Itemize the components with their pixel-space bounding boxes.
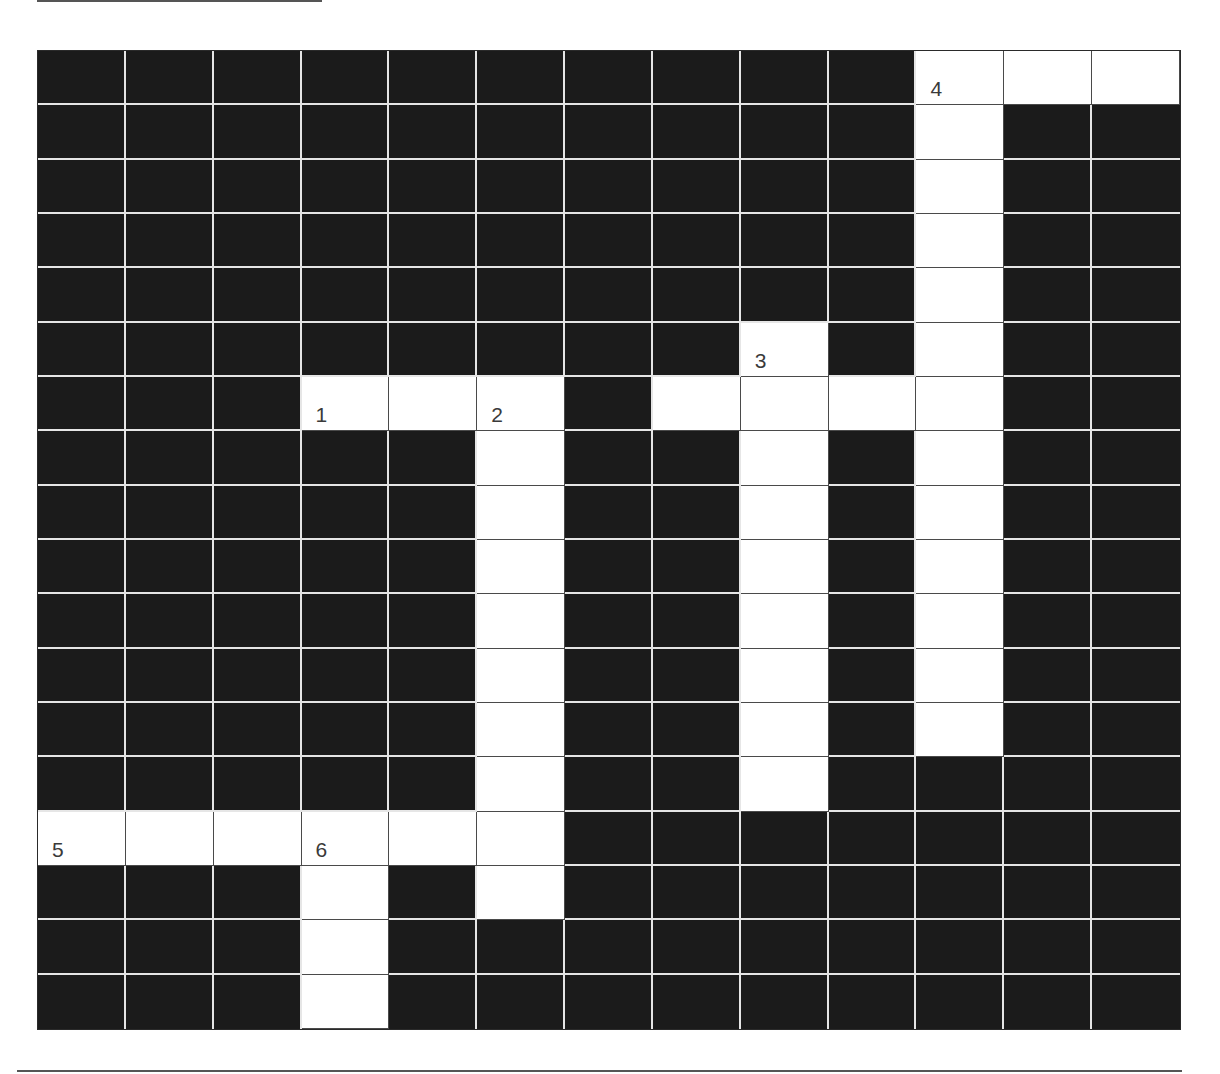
open-cell[interactable] xyxy=(741,703,829,757)
block-cell xyxy=(829,214,917,268)
open-cell[interactable] xyxy=(477,812,565,866)
open-cell[interactable] xyxy=(916,268,1004,322)
open-cell[interactable] xyxy=(477,540,565,594)
block-cell xyxy=(1092,540,1180,594)
block-cell xyxy=(916,757,1004,811)
block-cell xyxy=(1092,757,1180,811)
open-cell[interactable] xyxy=(741,377,829,431)
open-cell[interactable] xyxy=(302,975,390,1029)
block-cell xyxy=(389,323,477,377)
open-cell[interactable] xyxy=(1004,51,1092,105)
block-cell xyxy=(1092,214,1180,268)
block-cell xyxy=(741,160,829,214)
block-cell xyxy=(1092,866,1180,920)
open-cell[interactable] xyxy=(916,540,1004,594)
open-cell[interactable] xyxy=(302,920,390,974)
block-cell xyxy=(565,486,653,540)
open-cell[interactable] xyxy=(916,649,1004,703)
clue-number: 5 xyxy=(52,839,64,860)
open-cell[interactable] xyxy=(916,160,1004,214)
open-cell[interactable] xyxy=(477,703,565,757)
open-cell[interactable]: 6 xyxy=(302,812,390,866)
block-cell xyxy=(565,920,653,974)
open-cell[interactable]: 4 xyxy=(916,51,1004,105)
block-cell xyxy=(1092,377,1180,431)
block-cell xyxy=(389,866,477,920)
block-cell xyxy=(38,268,126,322)
block-cell xyxy=(214,105,302,159)
open-cell[interactable]: 5 xyxy=(38,812,126,866)
open-cell[interactable] xyxy=(916,214,1004,268)
block-cell xyxy=(38,649,126,703)
block-cell xyxy=(38,486,126,540)
clue-number: 6 xyxy=(316,839,328,860)
open-cell[interactable] xyxy=(477,431,565,485)
open-cell[interactable] xyxy=(1092,51,1180,105)
block-cell xyxy=(565,431,653,485)
block-cell xyxy=(741,214,829,268)
block-cell xyxy=(1004,594,1092,648)
open-cell[interactable] xyxy=(916,323,1004,377)
block-cell xyxy=(126,594,214,648)
block-cell xyxy=(1004,160,1092,214)
block-cell xyxy=(829,975,917,1029)
open-cell[interactable] xyxy=(741,540,829,594)
open-cell[interactable] xyxy=(126,812,214,866)
open-cell[interactable] xyxy=(741,649,829,703)
block-cell xyxy=(653,51,741,105)
open-cell[interactable] xyxy=(741,594,829,648)
open-cell[interactable] xyxy=(916,105,1004,159)
open-cell[interactable] xyxy=(741,757,829,811)
block-cell xyxy=(653,160,741,214)
block-cell xyxy=(741,975,829,1029)
open-cell[interactable] xyxy=(916,703,1004,757)
open-cell[interactable] xyxy=(916,594,1004,648)
block-cell xyxy=(302,649,390,703)
block-cell xyxy=(302,757,390,811)
open-cell[interactable] xyxy=(477,486,565,540)
open-cell[interactable] xyxy=(653,377,741,431)
block-cell xyxy=(126,486,214,540)
block-cell xyxy=(741,812,829,866)
block-cell xyxy=(916,812,1004,866)
block-cell xyxy=(916,920,1004,974)
open-cell[interactable] xyxy=(916,377,1004,431)
open-cell[interactable] xyxy=(477,594,565,648)
open-cell[interactable] xyxy=(916,431,1004,485)
open-cell[interactable]: 3 xyxy=(741,323,829,377)
open-cell[interactable] xyxy=(389,377,477,431)
top-rule xyxy=(37,0,322,2)
block-cell xyxy=(741,51,829,105)
block-cell xyxy=(1004,975,1092,1029)
open-cell[interactable]: 2 xyxy=(477,377,565,431)
block-cell xyxy=(126,323,214,377)
open-cell[interactable] xyxy=(477,757,565,811)
open-cell[interactable] xyxy=(389,812,477,866)
block-cell xyxy=(214,323,302,377)
open-cell[interactable] xyxy=(916,486,1004,540)
block-cell xyxy=(1092,594,1180,648)
block-cell xyxy=(653,540,741,594)
block-cell xyxy=(126,377,214,431)
open-cell[interactable] xyxy=(741,486,829,540)
open-cell[interactable] xyxy=(477,866,565,920)
block-cell xyxy=(389,51,477,105)
block-cell xyxy=(653,486,741,540)
open-cell[interactable] xyxy=(477,649,565,703)
open-cell[interactable]: 1 xyxy=(302,377,390,431)
block-cell xyxy=(565,268,653,322)
block-cell xyxy=(565,975,653,1029)
block-cell xyxy=(38,703,126,757)
open-cell[interactable] xyxy=(214,812,302,866)
block-cell xyxy=(829,486,917,540)
block-cell xyxy=(477,105,565,159)
open-cell[interactable] xyxy=(302,866,390,920)
block-cell xyxy=(38,920,126,974)
block-cell xyxy=(1004,812,1092,866)
block-cell xyxy=(653,431,741,485)
block-cell xyxy=(653,268,741,322)
open-cell[interactable] xyxy=(829,377,917,431)
block-cell xyxy=(1092,486,1180,540)
block-cell xyxy=(214,486,302,540)
open-cell[interactable] xyxy=(741,431,829,485)
